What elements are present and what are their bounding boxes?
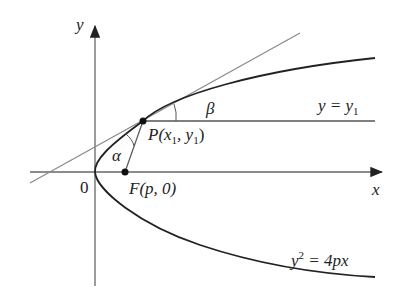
focus-label: F(p, 0)	[129, 180, 176, 197]
horizontal-line-label: y = y1	[318, 97, 359, 117]
point-F	[122, 169, 129, 176]
y-axis-label: y	[76, 16, 84, 33]
alpha-label: α	[112, 147, 121, 164]
parabola-equation-label: y2 = 4px	[291, 250, 349, 269]
point-P	[140, 118, 147, 125]
alpha-arc	[125, 133, 134, 146]
x-axis-label: x	[372, 181, 380, 198]
tangent-line	[30, 33, 300, 183]
parabola-curve	[95, 58, 375, 277]
parabola-diagram: y x 0 α β P(x1, y1) F(p, 0) y = y1 y2 = …	[0, 0, 400, 301]
beta-arc	[174, 104, 176, 121]
point-P-label: P(x1, y1)	[148, 126, 204, 146]
origin-label: 0	[80, 179, 89, 196]
beta-label: β	[206, 100, 214, 117]
